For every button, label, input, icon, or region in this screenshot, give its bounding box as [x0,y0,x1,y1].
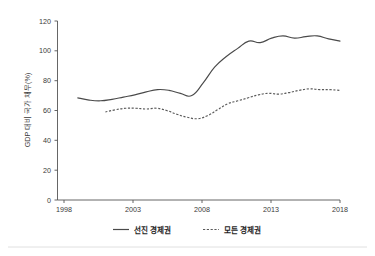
x-tick-label-1998: 1998 [56,205,72,214]
y-tick-label-0: 0 [47,196,51,205]
legend-label-all-economies: 모든 경제권 [224,225,261,235]
y-tick-label-60: 60 [43,106,51,115]
x-tick-label-2018: 2018 [332,205,348,214]
y-tick-label-100: 100 [39,46,51,55]
y-tick-label-40: 40 [43,136,51,145]
y-axis-title: GDP 대비 국가 채무(%) [23,73,32,148]
x-tick-label-2003: 2003 [125,205,141,214]
y-tick-label-20: 20 [43,166,51,175]
line-chart: 0 20 40 60 80 100 120 1998 2003 2008 201… [0,0,375,256]
chart-figure: 0 20 40 60 80 100 120 1998 2003 2008 201… [0,0,375,256]
chart-background [0,0,375,256]
x-tick-label-2008: 2008 [194,205,210,214]
legend-label-advanced-economies: 선진 경제권 [134,225,171,235]
y-tick-label-120: 120 [39,17,51,26]
x-tick-label-2013: 2013 [263,205,279,214]
y-tick-label-80: 80 [43,76,51,85]
